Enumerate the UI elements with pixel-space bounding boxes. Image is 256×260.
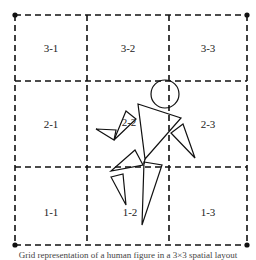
stick-figure xyxy=(96,80,195,225)
corner-dot-top-left xyxy=(12,12,17,17)
figure-caption: Grid representation of a human figure in… xyxy=(0,250,256,260)
figure-left-thigh xyxy=(111,150,143,171)
cell-label-2-1: 2-1 xyxy=(44,118,59,130)
cell-label-3-1: 3-1 xyxy=(44,42,59,54)
corner-dot-bottom-left xyxy=(12,242,17,247)
cell-label-3-2: 3-2 xyxy=(121,42,136,54)
figure-hip-joint xyxy=(144,159,145,164)
figure-right-arm xyxy=(171,124,195,158)
figure-left-hand xyxy=(96,129,116,140)
corner-dot-top-right xyxy=(244,12,249,17)
cell-label-1-1: 1-1 xyxy=(44,206,59,218)
figure-torso xyxy=(138,104,181,159)
cell-label-2-2: 2-2 xyxy=(122,116,137,128)
figure-left-shin xyxy=(111,174,126,205)
figure-head xyxy=(151,80,179,108)
cell-label-1-3: 1-3 xyxy=(201,206,216,218)
figure-right-leg xyxy=(142,162,162,225)
cell-label-1-2: 1-2 xyxy=(123,206,138,218)
corner-dot-bottom-right xyxy=(244,242,249,247)
cell-label-2-3: 2-3 xyxy=(201,118,216,130)
cell-label-3-3: 3-3 xyxy=(201,42,216,54)
